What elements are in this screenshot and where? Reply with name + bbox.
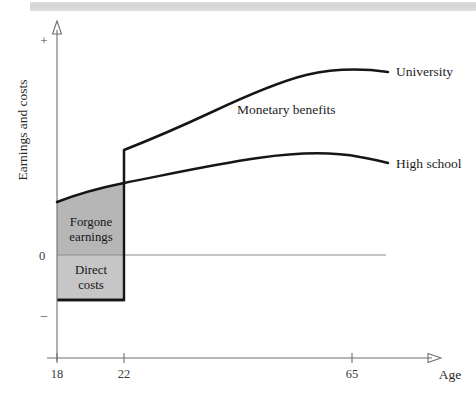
- y-axis-title: Earnings and costs: [15, 79, 30, 180]
- high-school-series-label: High school: [396, 156, 462, 171]
- university-curve: [124, 70, 388, 184]
- direct-costs-label-line1: Direct: [75, 263, 107, 277]
- direct-costs-label-line2: costs: [78, 278, 104, 292]
- forgone-earnings-label-line2: earnings: [69, 230, 112, 244]
- monetary-benefits-label: Monetary benefits: [237, 102, 336, 117]
- y-zero-label: 0: [39, 249, 45, 263]
- x-tick-label-22: 22: [118, 367, 131, 381]
- y-plus-sign-label: +: [40, 33, 47, 48]
- forgone-earnings-label-line1: Forgone: [70, 215, 113, 229]
- y-minus-sign-label: –: [40, 307, 48, 322]
- earnings-costs-chart: 18 22 65 + 0 – Earnings and costs Age Un…: [0, 0, 476, 401]
- figure-root: 18 22 65 + 0 – Earnings and costs Age Un…: [0, 0, 476, 401]
- x-tick-label-65: 65: [346, 367, 359, 381]
- university-series-label: University: [396, 64, 453, 79]
- x-axis-title: Age: [439, 367, 462, 382]
- x-tick-label-18: 18: [51, 367, 64, 381]
